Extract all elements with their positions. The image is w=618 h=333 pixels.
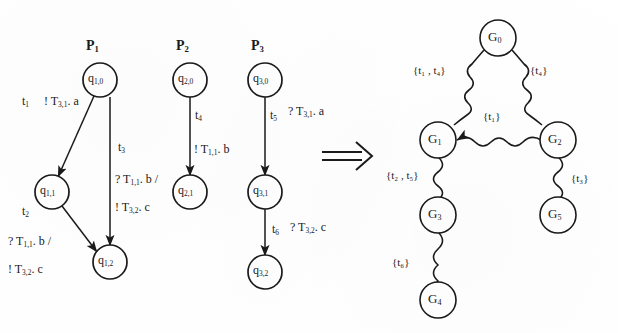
graph-edge-g2-g1 xyxy=(457,137,541,146)
graph-label-g2: G2 xyxy=(548,131,561,147)
transition-label-t4: t4 xyxy=(195,108,202,123)
graph-edge-g0-g1 xyxy=(454,50,484,125)
graph-edge-label-g0-g1: {t₁ , t₄} xyxy=(413,64,446,76)
graph-edge-label-g2-g1: {t₁} xyxy=(483,110,500,122)
graph-edge-label-g0-g2: {t₄} xyxy=(530,64,547,76)
transition-action-t3-line2: ! T3,2. c xyxy=(115,200,150,215)
graph-label-g3: G3 xyxy=(428,206,441,222)
transition-action-t2-line1: ? T1,1. b / xyxy=(8,234,51,249)
state-label-q1-0: q1,0 xyxy=(88,71,103,86)
process-title-p2: P2 xyxy=(176,38,189,54)
transition-action-t2-line2: ! T3,2. c xyxy=(8,262,43,277)
graph-label-g4: G4 xyxy=(428,291,441,307)
state-label-q3-1: q3,1 xyxy=(253,183,268,198)
transition-label-t3: t3 xyxy=(118,140,125,155)
state-label-q1-1: q1,1 xyxy=(40,183,55,198)
state-label-q2-1: q2,1 xyxy=(178,183,193,198)
transition-action-t6: ? T3,2. c xyxy=(290,220,326,235)
process-title-p1: P1 xyxy=(86,38,99,54)
graph-label-g0: G0 xyxy=(488,29,501,45)
state-label-q2-0: q2,0 xyxy=(178,71,193,86)
graph-edge-g0-g2 xyxy=(512,50,542,125)
p1-edge-q1-q2 xyxy=(62,206,97,252)
implication-arrow-icon xyxy=(322,142,372,170)
transition-label-t6: t6 xyxy=(272,222,279,237)
transition-action-t4: ! T1,1. b xyxy=(194,142,229,157)
transition-action-t5: ? T3,1. a xyxy=(288,104,324,119)
graph-label-g1: G1 xyxy=(428,131,441,147)
transition-action-t3-line1: ? T1,1. b / xyxy=(115,172,158,187)
graph-edge-g3-g4 xyxy=(434,232,443,289)
process-p3 xyxy=(248,63,282,289)
graph-edge-label-g2-g5: {t₃} xyxy=(571,172,588,184)
transition-label-t1: t1 xyxy=(22,94,29,109)
transition-action-t1: ! T3,1. a xyxy=(44,94,79,109)
process-title-p3: P3 xyxy=(251,38,264,54)
state-label-q3-0: q3,0 xyxy=(253,71,268,86)
state-label-q1-2: q1,2 xyxy=(98,253,113,268)
graph-edge-label-g3-g4: {t₆} xyxy=(392,256,409,268)
transition-label-t2: t2 xyxy=(22,204,29,219)
graph-edge-label-g1-g3: {t₂ , t₅} xyxy=(386,169,419,181)
state-label-q3-2: q3,2 xyxy=(253,263,268,278)
transition-label-t5: t5 xyxy=(270,108,277,123)
graph-label-g5: G5 xyxy=(548,206,561,222)
